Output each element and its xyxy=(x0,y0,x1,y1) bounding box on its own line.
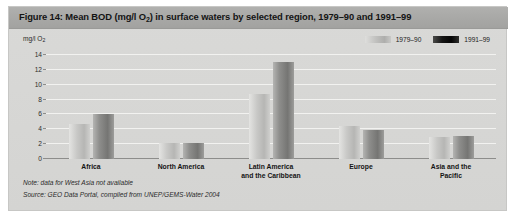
chart-bar-groups: AfricaNorth AmericaLatin America and the… xyxy=(46,55,496,159)
figure-title-prefix: Figure 14: Mean BOD (mg/l O xyxy=(19,11,146,22)
y-tick-label-12: 12 xyxy=(35,69,42,70)
bar-group-3: Latin America and the Caribbean xyxy=(226,55,316,159)
bar-4-series-1 xyxy=(339,126,360,159)
chart-footnotes: Note: data for West Asia not available S… xyxy=(23,179,493,203)
y-tick-label-2: 2 xyxy=(38,143,42,144)
bar-2-series-2 xyxy=(183,143,204,159)
legend-swatch-icon-1991-99 xyxy=(433,36,459,43)
y-axis-unit-text: mg/l O xyxy=(23,35,42,42)
figure-title-suffix: ) in surface waters by selected region, … xyxy=(150,11,411,22)
y-axis-unit-subscript: 2 xyxy=(42,37,45,43)
bar-4-series-2 xyxy=(363,130,384,159)
bar-1-series-1 xyxy=(69,124,90,159)
bar-group-4: Europe xyxy=(316,55,406,159)
legend-label-1991-99: 1991–99 xyxy=(464,36,490,43)
y-tick-label-4: 4 xyxy=(38,128,42,129)
legend-label-1979-90: 1979–90 xyxy=(396,36,422,43)
figure-title-subscript: 2 xyxy=(146,16,150,23)
bar-3-series-1 xyxy=(249,94,270,159)
figure-card: Figure 14: Mean BOD (mg/l O2) in surface… xyxy=(8,6,507,211)
bar-5-series-2 xyxy=(453,136,474,159)
chart-axes: 02468101214 AfricaNorth AmericaLatin Ame… xyxy=(46,55,496,159)
y-tick-label-6: 6 xyxy=(38,113,42,114)
chart-plot-panel: mg/l O2 1979–90 1991–99 02468101214 Afri… xyxy=(19,34,498,171)
footnote-source: Source: GEO Data Portal, compiled from U… xyxy=(23,191,493,198)
legend-item-1991-99: 1991–99 xyxy=(433,36,490,43)
bar-3-series-2 xyxy=(273,62,294,159)
y-tick-label-8: 8 xyxy=(38,99,42,100)
x-axis-category-label-5: Asia and the Pacific xyxy=(386,159,515,180)
y-tick-label-14: 14 xyxy=(35,54,42,55)
y-tick-label-10: 10 xyxy=(35,84,42,85)
bar-1-series-2 xyxy=(93,114,114,159)
y-axis-unit-label: mg/l O2 xyxy=(23,35,45,42)
page-title: Figure 14: Mean BOD (mg/l O2) in surface… xyxy=(19,11,411,22)
legend-swatch-icon-1979-90 xyxy=(365,36,391,43)
legend-item-1979-90: 1979–90 xyxy=(365,36,422,43)
chart-legend: 1979–90 1991–99 xyxy=(365,36,490,43)
footnote-note: Note: data for West Asia not available xyxy=(23,179,493,186)
figure-title-bar: Figure 14: Mean BOD (mg/l O2) in surface… xyxy=(9,7,508,29)
bar-group-1: Africa xyxy=(46,55,136,159)
bar-2-series-1 xyxy=(159,143,180,159)
bar-group-2: North America xyxy=(136,55,226,159)
bar-5-series-1 xyxy=(429,137,450,159)
bar-group-5: Asia and the Pacific xyxy=(406,55,496,159)
